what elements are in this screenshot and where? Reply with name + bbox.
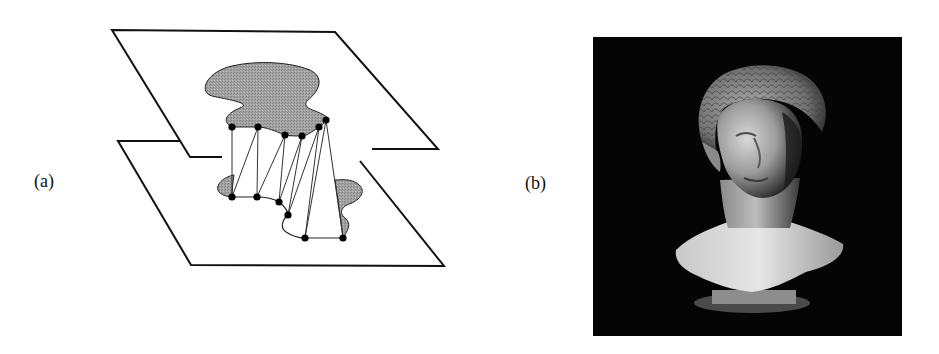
figure: (a) (b) [0, 0, 939, 354]
bust-photograph [593, 37, 902, 336]
contour-triangulation-diagram [0, 0, 939, 354]
top-contour-region [205, 63, 328, 136]
bottom-contour-vertices [228, 193, 346, 241]
triangulation-edges [232, 120, 343, 238]
